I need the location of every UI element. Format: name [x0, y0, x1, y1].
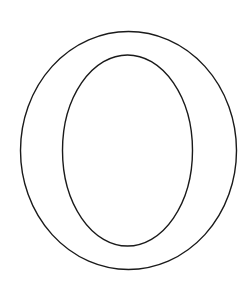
letter-o-graphic: [0, 0, 243, 297]
outer-contour: [21, 32, 237, 270]
outlined-letter-o: [0, 0, 243, 297]
inner-contour: [63, 55, 193, 246]
